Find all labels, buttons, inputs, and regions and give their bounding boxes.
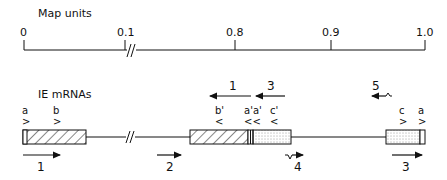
transcript-arrow-5	[372, 93, 392, 96]
tick-label-1-0: 1.0	[416, 26, 434, 39]
map-scale-axis	[24, 40, 425, 57]
transcript-label-2: 2	[166, 160, 174, 174]
site-marker-b-prime: <	[215, 116, 223, 127]
site-label-a-right: a	[418, 105, 424, 116]
right-terminal-repeat-box	[386, 130, 425, 144]
site-marker-b: >	[53, 116, 61, 127]
tick-label-0-9: 0.9	[322, 26, 340, 39]
site-label-c-prime: c'	[270, 105, 278, 116]
ie-mrnas-title: IE mRNAs	[38, 88, 92, 101]
genome-map-diagram: Map units 0 0.1 0.8 0.9 1.0 IE mRNAs	[0, 0, 447, 180]
site-label-a-prime: a'a'	[244, 105, 262, 116]
left-terminal-repeat-box	[23, 130, 86, 144]
site-label-a: a	[22, 105, 28, 116]
transcript-label-1-right: 1	[37, 160, 45, 174]
site-marker-c: >	[399, 116, 407, 127]
map-units-title: Map units	[38, 7, 92, 20]
tick-label-0-1: 0.1	[117, 26, 135, 39]
site-label-b-prime: b'	[215, 105, 224, 116]
tick-label-0-8: 0.8	[226, 26, 244, 39]
site-marker-a-right: >	[418, 116, 426, 127]
internal-repeat-box	[190, 130, 291, 144]
transcript-label-3-right: 3	[402, 160, 410, 174]
site-label-c: c	[399, 105, 405, 116]
transcript-label-5: 5	[372, 79, 380, 93]
transcript-label-4: 4	[294, 160, 302, 174]
site-label-b: b	[53, 105, 59, 116]
site-marker-a-prime: <<	[244, 116, 261, 127]
transcript-arrow-4	[285, 155, 303, 159]
transcript-label-1-left: 1	[229, 79, 237, 93]
transcript-label-3-left: 3	[267, 79, 275, 93]
site-marker-c-prime: <	[270, 116, 278, 127]
tick-label-0: 0	[20, 26, 27, 39]
site-marker-a: >	[22, 116, 30, 127]
